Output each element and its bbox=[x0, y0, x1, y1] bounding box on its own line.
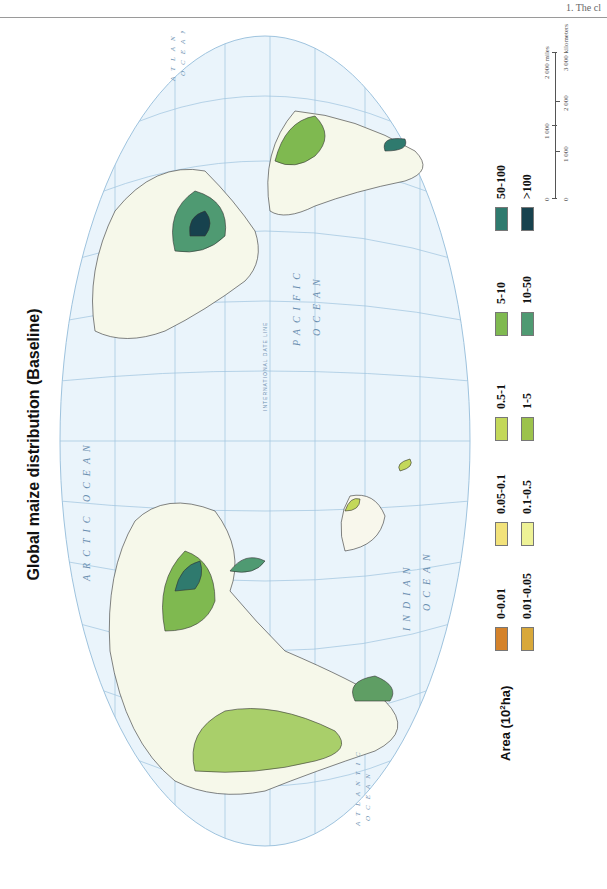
atlantic-ocean-label-s1: ATLANTIC bbox=[354, 746, 362, 827]
pacific-ocean-label-1: PACIFIC bbox=[291, 267, 302, 347]
world-map-graphic: ARCTIC OCEAN PACIFIC OCEAN INDIAN OCEAN … bbox=[55, 31, 475, 851]
legend-item: 0.01-0.05 bbox=[514, 546, 540, 651]
legend-title: Area (102ha) bbox=[498, 686, 513, 761]
date-line-label: INTERNATIONAL DATE LINE bbox=[262, 322, 268, 411]
legend-swatch bbox=[495, 312, 508, 336]
legend-item: 5-10 bbox=[488, 231, 514, 336]
legend-swatch bbox=[521, 522, 534, 546]
legend-swatch bbox=[495, 522, 508, 546]
rotated-map-page: Global maize distribution (Baseline) bbox=[0, 0, 607, 889]
atlantic-ocean-label-s2: OCEAN bbox=[364, 768, 372, 821]
legend-item: 50-100 bbox=[488, 126, 514, 231]
legend-item: 0-0.01 bbox=[488, 546, 514, 651]
scale-bar: 0 1 000 2 000 miles 0 1 000 2 000 3 000 … bbox=[535, 29, 585, 199]
indian-ocean-label-1: INDIAN bbox=[401, 562, 412, 632]
pacific-ocean-label-2: OCEAN bbox=[311, 273, 322, 336]
indian-ocean-label-2: OCEAN bbox=[421, 548, 432, 611]
legend-swatch bbox=[495, 627, 508, 651]
legend-swatch bbox=[521, 627, 534, 651]
legend-item: 0.05-0.1 bbox=[488, 441, 514, 546]
legend-swatch bbox=[521, 207, 534, 231]
legend-item: 0.5-1 bbox=[488, 336, 514, 441]
world-map: ARCTIC OCEAN PACIFIC OCEAN INDIAN OCEAN … bbox=[55, 31, 475, 851]
atlantic-ocean-label-n2: OCEAN bbox=[179, 31, 187, 76]
arctic-ocean-label: ARCTIC OCEAN bbox=[81, 439, 92, 582]
legend-swatch bbox=[521, 417, 534, 441]
legend-swatch bbox=[521, 312, 534, 336]
legend-item: 10-50 bbox=[514, 231, 540, 336]
atlantic-ocean-label-n1: ATLANTIC bbox=[169, 31, 177, 82]
map-title: Global maize distribution (Baseline) bbox=[25, 0, 43, 889]
legend-item: 1-5 bbox=[514, 336, 540, 441]
legend-grid: 0-0.01 0.05-0.1 0.5-1 5-10 50-100 0.01-0… bbox=[488, 126, 540, 651]
scale-line bbox=[555, 53, 556, 199]
legend-swatch bbox=[495, 417, 508, 441]
legend-item: 0.1-0.5 bbox=[514, 441, 540, 546]
legend-swatch bbox=[495, 207, 508, 231]
